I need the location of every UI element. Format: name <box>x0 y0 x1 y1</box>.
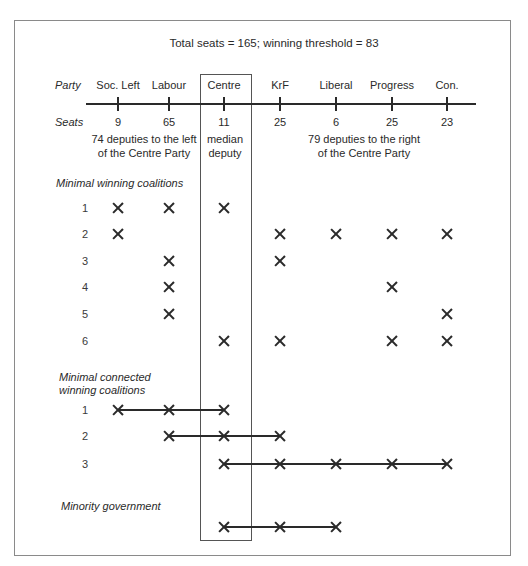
party-seats: 9 <box>115 116 121 129</box>
member-cross-icon <box>274 458 286 470</box>
member-cross-icon <box>386 228 398 240</box>
left-deputies-note-line1: 74 deputies to the left <box>91 133 196 146</box>
member-cross-icon <box>218 430 230 442</box>
party-seats: 65 <box>163 116 175 129</box>
member-cross-icon <box>163 281 175 293</box>
coalition-number: 3 <box>82 255 88 267</box>
coalition-diagram: Total seats = 165; winning threshold = 8… <box>0 0 528 566</box>
coalition-number: 1 <box>82 202 88 214</box>
party-seats: 23 <box>441 116 453 129</box>
coalition-number: 2 <box>82 430 88 442</box>
left-right-axis <box>86 103 476 105</box>
axis-tick <box>223 97 225 111</box>
member-cross-icon <box>441 335 453 347</box>
party-name: Centre <box>207 79 240 92</box>
party-seats: 25 <box>274 116 286 129</box>
member-cross-icon <box>218 404 230 416</box>
diagram-title: Total seats = 165; winning threshold = 8… <box>169 37 378 50</box>
member-cross-icon <box>163 404 175 416</box>
party-name: Soc. Left <box>96 79 139 92</box>
member-cross-icon <box>218 458 230 470</box>
member-cross-icon <box>386 335 398 347</box>
party-name: Con. <box>435 79 458 92</box>
member-cross-icon <box>274 430 286 442</box>
party-name: KrF <box>271 79 289 92</box>
party-seats: 11 <box>218 116 229 129</box>
member-cross-icon <box>441 458 453 470</box>
diagram-frame <box>14 20 511 556</box>
minimal-connected-heading-line2: winning coalitions <box>59 384 145 397</box>
coalition-number: 4 <box>82 281 88 293</box>
member-cross-icon <box>386 458 398 470</box>
member-cross-icon <box>163 308 175 320</box>
seats-row-label: Seats <box>55 116 83 129</box>
minimal-winning-heading: Minimal winning coalitions <box>56 177 183 190</box>
coalition-number: 6 <box>82 335 88 347</box>
member-cross-icon <box>163 430 175 442</box>
left-deputies-note-line2: of the Centre Party <box>98 147 190 160</box>
right-deputies-note-line2: of the Centre Party <box>318 147 410 160</box>
median-deputy-note-line2: deputy <box>208 147 241 160</box>
member-cross-icon <box>330 458 342 470</box>
member-cross-icon <box>274 521 286 533</box>
right-deputies-note-line1: 79 deputies to the right <box>308 133 420 146</box>
coalition-number: 5 <box>82 308 88 320</box>
party-seats: 6 <box>333 116 339 129</box>
party-name: Progress <box>370 79 414 92</box>
member-cross-icon <box>330 521 342 533</box>
member-cross-icon <box>112 228 124 240</box>
member-cross-icon <box>330 228 342 240</box>
axis-tick <box>117 97 119 111</box>
median-deputy-note-line1: median <box>207 133 243 146</box>
party-seats: 25 <box>386 116 398 129</box>
minimal-connected-heading-line1: Minimal connected <box>59 371 151 384</box>
coalition-number: 3 <box>82 458 88 470</box>
party-name: Labour <box>152 79 186 92</box>
member-cross-icon <box>274 335 286 347</box>
coalition-number: 1 <box>82 404 88 416</box>
member-cross-icon <box>218 202 230 214</box>
axis-tick <box>391 97 393 111</box>
member-cross-icon <box>218 521 230 533</box>
member-cross-icon <box>163 255 175 267</box>
member-cross-icon <box>218 335 230 347</box>
member-cross-icon <box>274 255 286 267</box>
axis-tick <box>335 97 337 111</box>
coalition-number: 2 <box>82 228 88 240</box>
member-cross-icon <box>386 281 398 293</box>
party-row-label: Party <box>55 79 81 92</box>
member-cross-icon <box>112 404 124 416</box>
axis-tick <box>168 97 170 111</box>
member-cross-icon <box>163 202 175 214</box>
member-cross-icon <box>274 228 286 240</box>
member-cross-icon <box>112 202 124 214</box>
member-cross-icon <box>441 228 453 240</box>
member-cross-icon <box>441 308 453 320</box>
minority-government-heading: Minority government <box>61 500 161 513</box>
axis-tick <box>446 97 448 111</box>
axis-tick <box>279 97 281 111</box>
party-name: Liberal <box>319 79 352 92</box>
